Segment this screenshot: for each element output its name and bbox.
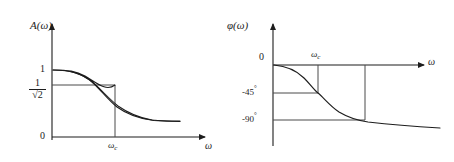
phase-tick-zero: 0 [259, 52, 264, 62]
amplitude-curve [53, 70, 180, 121]
frequency-response-figure: A(ω) 1 1 √2 0 ωc ω φ(ω) 0 -45° -90° ωc ω [0, 0, 454, 162]
phase-curve [274, 65, 440, 128]
phase-tick-minus-45: -45° [242, 86, 257, 97]
phase-cutoff-tick-label: ωc [311, 50, 320, 59]
amplitude-tick-zero: 0 [40, 131, 45, 141]
amplitude-cutoff-tick-label: ωc [108, 141, 117, 150]
phase-x-axis-label: ω [428, 57, 435, 67]
amplitude-curve-main [53, 70, 180, 122]
fraction-denominator: √2 [29, 90, 46, 101]
amplitude-tick-one-over-root-two: 1 √2 [29, 78, 46, 100]
amplitude-tick-one: 1 [40, 64, 45, 74]
phase-axis-label: φ(ω) [227, 20, 248, 31]
phase-response-plot [273, 24, 440, 146]
phase-tick-minus-90: -90° [242, 113, 257, 124]
amplitude-response-plot [52, 24, 205, 140]
fraction-numerator: 1 [29, 78, 46, 89]
amplitude-x-axis-label: ω [205, 141, 212, 151]
amplitude-axis-label: A(ω) [30, 20, 52, 31]
